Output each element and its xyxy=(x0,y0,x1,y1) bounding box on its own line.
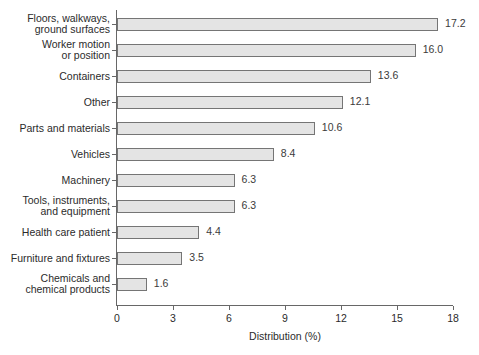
bar-row: 12.1 xyxy=(117,90,453,116)
bar xyxy=(117,278,147,291)
y-axis-tick xyxy=(112,154,116,155)
bar-value-label: 6.3 xyxy=(242,198,257,213)
x-axis-tick-label: 15 xyxy=(382,311,412,325)
plot-area: 17.216.013.612.110.68.46.36.34.43.51.6 xyxy=(117,12,453,305)
x-axis-tick xyxy=(341,306,342,310)
y-axis-tick xyxy=(112,128,116,129)
bar-value-label: 8.4 xyxy=(281,146,296,161)
x-axis-tick-label: 12 xyxy=(326,311,356,325)
category-label: Machinery xyxy=(4,175,110,187)
bar xyxy=(117,148,274,161)
x-axis-title: Distribution (%) xyxy=(117,330,453,342)
y-axis-tick xyxy=(112,232,116,233)
x-axis-tick xyxy=(397,306,398,310)
bar-row: 6.3 xyxy=(117,168,453,194)
bar-value-label: 4.4 xyxy=(206,224,221,239)
category-label: Parts and materials xyxy=(4,123,110,135)
bar xyxy=(117,18,438,31)
bar xyxy=(117,200,235,213)
x-axis-tick xyxy=(229,306,230,310)
bar-row: 13.6 xyxy=(117,64,453,90)
y-axis-tick xyxy=(112,102,116,103)
bar-value-label: 6.3 xyxy=(242,172,257,187)
bar-value-label: 16.0 xyxy=(423,42,443,57)
category-label: Health care patient xyxy=(4,227,110,239)
category-label: Tools, instruments, and equipment xyxy=(4,195,110,219)
bar-row: 1.6 xyxy=(117,272,453,298)
bar-row: 4.4 xyxy=(117,220,453,246)
category-label: Furniture and fixtures xyxy=(4,253,110,265)
bar-row: 3.5 xyxy=(117,246,453,272)
bar-value-label: 12.1 xyxy=(350,94,370,109)
bar-chart: 17.216.013.612.110.68.46.36.34.43.51.6 F… xyxy=(0,0,479,355)
x-axis-tick xyxy=(173,306,174,310)
bar-row: 8.4 xyxy=(117,142,453,168)
x-axis-tick-label: 6 xyxy=(214,311,244,325)
bar xyxy=(117,122,315,135)
x-axis-tick xyxy=(117,306,118,310)
category-label: Other xyxy=(4,97,110,109)
bar-row: 16.0 xyxy=(117,38,453,64)
x-axis-tick-label: 0 xyxy=(102,311,132,325)
y-axis-tick xyxy=(112,258,116,259)
category-label: Worker motion or position xyxy=(4,39,110,63)
y-axis-tick xyxy=(112,24,116,25)
bar-value-label: 1.6 xyxy=(154,276,169,291)
y-axis-tick xyxy=(112,50,116,51)
x-axis-tick xyxy=(453,306,454,310)
bar-value-label: 17.2 xyxy=(445,16,465,31)
y-axis-tick xyxy=(112,180,116,181)
bar xyxy=(117,44,416,57)
y-axis-tick xyxy=(112,76,116,77)
category-label: Containers xyxy=(4,71,110,83)
bar-row: 10.6 xyxy=(117,116,453,142)
x-axis-tick-label: 18 xyxy=(438,311,468,325)
category-label: Floors, walkways, ground surfaces xyxy=(4,13,110,37)
bar xyxy=(117,174,235,187)
category-label: Chemicals and chemical products xyxy=(4,273,110,297)
bar xyxy=(117,226,199,239)
y-axis-tick xyxy=(112,206,116,207)
x-axis-tick-label: 3 xyxy=(158,311,188,325)
bar-row: 17.2 xyxy=(117,12,453,38)
bar xyxy=(117,96,343,109)
x-axis-tick-label: 9 xyxy=(270,311,300,325)
bar-value-label: 3.5 xyxy=(189,250,204,265)
bar-value-label: 13.6 xyxy=(378,68,398,83)
bar xyxy=(117,70,371,83)
bar xyxy=(117,252,182,265)
bar-value-label: 10.6 xyxy=(322,120,342,135)
bar-row: 6.3 xyxy=(117,194,453,220)
y-axis-tick xyxy=(112,284,116,285)
category-label: Vehicles xyxy=(4,149,110,161)
x-axis-tick xyxy=(285,306,286,310)
